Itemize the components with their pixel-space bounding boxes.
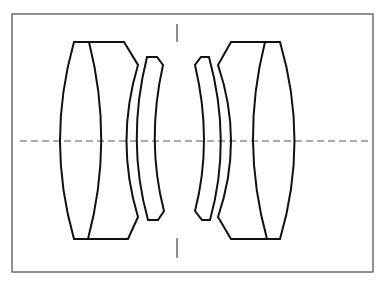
lens-diagram xyxy=(0,0,379,282)
front-meniscus xyxy=(137,57,164,220)
rear-meniscus xyxy=(195,57,221,220)
diagram-frame xyxy=(12,14,373,272)
